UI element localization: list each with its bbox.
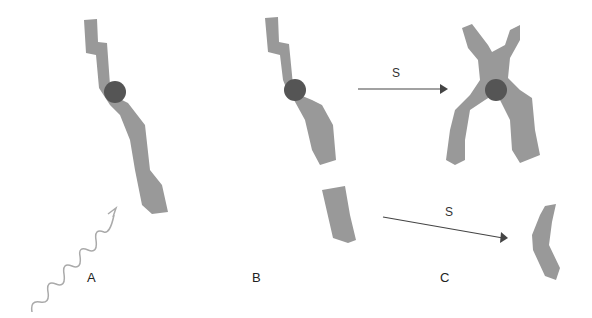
arrow-label-lower: S: [445, 205, 453, 219]
arrow-label-upper: S: [392, 66, 400, 80]
chromosome-c-acentric: [532, 204, 560, 280]
centromere-b: [284, 79, 306, 101]
centromere-c: [485, 79, 507, 101]
panel-label-c: C: [440, 270, 449, 285]
centromere-a: [104, 81, 126, 103]
chromosome-b-acentric: [322, 186, 356, 243]
arrowhead-upper-icon: [440, 84, 448, 94]
panel-label-b: B: [252, 270, 261, 285]
chromosome-a: [84, 19, 168, 214]
arrowhead-lower-icon: [500, 232, 508, 243]
panel-label-a: A: [87, 270, 96, 285]
arrow-s-lower: [383, 217, 503, 238]
radiation-arrowhead-icon: [108, 208, 116, 217]
radiation-wave-icon: [32, 215, 114, 312]
